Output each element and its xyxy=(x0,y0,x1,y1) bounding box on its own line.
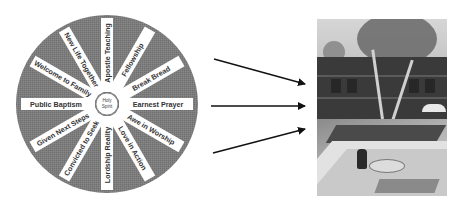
spoke-label: Earnest Prayer xyxy=(133,100,184,109)
diagram-canvas: Earnest PrayerAwe in WorshipLove in Acti… xyxy=(0,0,461,212)
wheel-spoke: Lordship Reality xyxy=(101,116,113,190)
courtyard-photo xyxy=(317,19,447,196)
arrow-bottom xyxy=(213,129,305,153)
photo-window xyxy=(331,79,341,93)
photo-patio-table xyxy=(369,159,405,173)
arrow-top xyxy=(214,59,305,84)
photo-floorline xyxy=(317,75,447,77)
center-label-line2: Spirit xyxy=(102,104,113,109)
photo-window xyxy=(425,79,435,93)
spoke-label: Public Baptism xyxy=(30,100,82,109)
spoke-label: Apostle Teaching xyxy=(103,23,112,82)
wheel-spoke: Earnest Prayer xyxy=(119,98,193,110)
photo-floorline xyxy=(317,97,447,99)
photo-window xyxy=(347,79,357,93)
photo-shadow xyxy=(374,179,439,193)
wheel-spoke: Public Baptism xyxy=(21,98,95,110)
wheel-spoke: Apostle Teaching xyxy=(101,18,113,92)
spoke-label: Lordship Reality xyxy=(103,127,112,183)
photo-seated-person xyxy=(357,149,367,169)
center-label-line1: Holy xyxy=(102,98,112,103)
photo-umbrella xyxy=(422,104,446,112)
photo-window xyxy=(409,79,419,93)
